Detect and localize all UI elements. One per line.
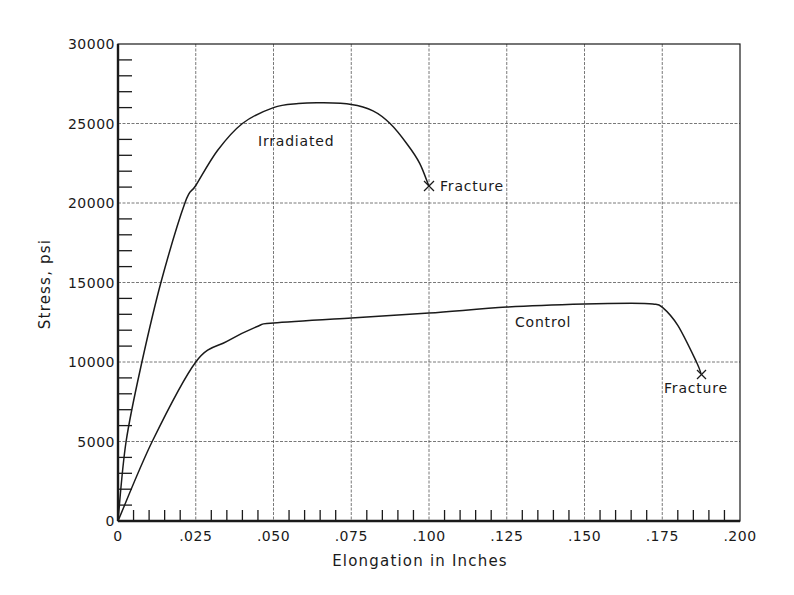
irradiated-label: Irradiated (258, 133, 334, 149)
x-tick-label: .150 (568, 528, 601, 544)
x-tick-label: .125 (490, 528, 523, 544)
irradiated-fracture-label: Fracture (440, 178, 504, 194)
y-tick-label: 30000 (68, 36, 115, 52)
y-tick-label: 25000 (68, 116, 115, 132)
data-curves (118, 103, 701, 521)
y-tick-label: 0 (106, 513, 115, 529)
control-fracture-label: Fracture (664, 380, 728, 396)
x-tick-label: .100 (412, 528, 445, 544)
control-label: Control (515, 314, 571, 330)
y-tick-label: 15000 (68, 275, 115, 291)
x-tick-label: .025 (179, 528, 212, 544)
y-tick-label: 20000 (68, 195, 115, 211)
stress-elongation-chart: 0.025.050.075.100.125.150.175.200 050001… (0, 0, 794, 595)
y-tick-labels: 050001000015000200002500030000 (68, 36, 115, 529)
x-axis-title: Elongation in Inches (332, 552, 508, 570)
y-axis-title: Stress, psi (36, 239, 54, 329)
curve-control (118, 303, 701, 521)
x-tick-label: 0 (113, 528, 122, 544)
x-tick-labels: 0.025.050.075.100.125.150.175.200 (113, 528, 756, 544)
grid-lines (118, 44, 740, 521)
x-tick-label: .050 (257, 528, 290, 544)
minor-ticks (118, 60, 724, 521)
y-tick-label: 5000 (77, 434, 115, 450)
y-tick-label: 10000 (68, 354, 115, 370)
control-fracture-marker (697, 370, 706, 379)
x-tick-label: .175 (646, 528, 679, 544)
x-tick-label: .200 (723, 528, 756, 544)
x-tick-label: .075 (335, 528, 368, 544)
